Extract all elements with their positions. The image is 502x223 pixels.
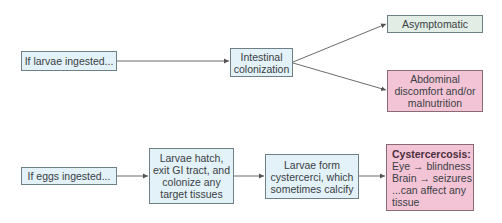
node-label-line: colonize any	[162, 176, 220, 188]
node-label-line: sometimes calcify	[271, 183, 354, 195]
node-title: Cystercercosis:	[392, 148, 471, 160]
node-label-line: Intestinal	[240, 51, 282, 63]
node-label-line: tissue	[392, 196, 419, 208]
node-label: If larvae ingested...	[25, 55, 114, 67]
node-label-line: Abdominal	[410, 73, 460, 85]
node-intestinal-colonization: Intestinal colonization	[230, 48, 293, 77]
node-label-line: Larvae form	[284, 159, 340, 171]
node-label-line: Larvae hatch,	[160, 152, 224, 164]
node-label-line: discomfort and/or	[394, 85, 475, 97]
node-asymptomatic: Asymptomatic	[387, 15, 483, 33]
node-label-line: Brain → seizures	[392, 172, 472, 184]
node-label-line: exit GI tract, and	[153, 164, 230, 176]
node-label-line: colonization	[234, 63, 289, 75]
arrow-to-abdominal	[293, 63, 386, 90]
node-abdominal-discomfort: Abdominal discomfort and/or malnutrition	[387, 70, 483, 112]
arrow-to-asymptomatic	[293, 24, 386, 62]
node-label-line: target tissues	[160, 188, 222, 200]
node-larvae-ingested: If larvae ingested...	[21, 51, 117, 71]
node-label-line: Eye → blindness	[392, 160, 471, 172]
node-label-line: cystercerci, which	[271, 171, 354, 183]
node-larvae-form-cystercerci: Larvae form cystercerci, which sometimes…	[265, 154, 359, 199]
node-label-line: ...can affect any	[392, 184, 466, 196]
node-eggs-ingested: If eggs ingested...	[21, 167, 117, 185]
node-label: If eggs ingested...	[28, 170, 111, 182]
node-cystercercosis: Cystercercosis: Eye → blindness Brain → …	[386, 144, 474, 211]
node-label-line: malnutrition	[408, 97, 462, 109]
node-label: Asymptomatic	[402, 18, 468, 30]
node-larvae-hatch: Larvae hatch, exit GI tract, and coloniz…	[149, 148, 234, 204]
